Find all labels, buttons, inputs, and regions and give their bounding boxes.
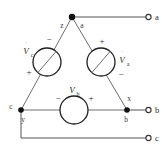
voltage-source-bottom-symbol — [60, 96, 88, 124]
voltage-source-left-label: V — [23, 46, 30, 56]
voltage-source-left-subscript: c — [31, 52, 34, 58]
node-label-bottom-right-upper: x — [127, 94, 131, 103]
voltage-source-right-label: V — [119, 55, 126, 65]
node-label-bottom-left-inner: y — [21, 115, 25, 124]
voltage-source-bottom-sign-right: + — [88, 93, 93, 103]
terminal-a-circle[interactable] — [146, 14, 151, 19]
node-label-apex-left: z — [60, 21, 64, 30]
node-label-bottom-left-outer: c — [9, 102, 13, 111]
voltage-source-right-sign-top: + — [99, 36, 104, 46]
voltage-source-bottom-subscript: b — [77, 91, 80, 97]
voltage-source-right-subscript: a — [127, 61, 130, 67]
terminal-label-a: a — [155, 12, 159, 22]
voltage-source-bottom-label: V — [69, 85, 76, 95]
voltage-source-bottom-sign-left: − — [55, 93, 60, 103]
terminal-c-circle[interactable] — [146, 135, 151, 140]
node-apex-dot — [69, 14, 75, 20]
voltage-source-left-sign-bottom: + — [26, 67, 31, 77]
voltage-source-left-sign-top: − — [46, 34, 51, 44]
voltage-source-bottom-label-group: ˙ V b — [69, 80, 79, 97]
node-bottom-left-dot — [18, 107, 24, 113]
terminal-label-c: c — [155, 133, 159, 143]
terminal-label-b: b — [155, 105, 159, 115]
node-label-bottom-right-lower: b — [124, 115, 128, 124]
voltage-source-right-sign-bottom: − — [118, 69, 123, 79]
node-label-apex-right: a — [80, 21, 84, 30]
circuit-canvas: a b c z a c y x b ˙ V c − + ˙ V a + − ˙ … — [0, 0, 168, 153]
node-bottom-right-dot — [124, 107, 130, 113]
circuit-diagram: a b c z a c y x b ˙ V c − + ˙ V a + − ˙ … — [0, 0, 168, 153]
voltage-source-right-label-group: ˙ V a — [119, 50, 129, 67]
voltage-source-left-label-group: ˙ V c — [23, 41, 33, 58]
terminal-b-circle[interactable] — [146, 107, 151, 112]
